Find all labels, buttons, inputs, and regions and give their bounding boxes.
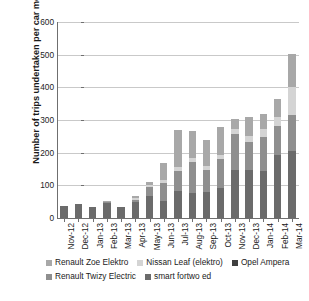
legend-label: Opel Ampera	[241, 258, 289, 267]
bar-segment	[132, 202, 139, 218]
bar-stack[interactable]	[231, 119, 238, 218]
bar-segment	[160, 183, 167, 201]
bar-slot	[142, 22, 156, 218]
bar-segment	[146, 187, 153, 196]
y-axis-ticks: 0100200300400500600	[26, 22, 54, 218]
legend-swatch-icon	[137, 260, 143, 266]
bar-segment	[288, 87, 295, 115]
x-label-slot: Feb-14	[271, 223, 285, 255]
bar-slot	[185, 22, 199, 218]
legend: Renault Zoe ElektroNissan Leaf (elektro)…	[46, 256, 301, 283]
x-tick-mark	[235, 219, 236, 222]
bar-stack[interactable]	[160, 163, 167, 218]
x-tick-mark	[221, 219, 222, 222]
bar-segment	[231, 134, 238, 170]
bar-segment	[203, 170, 210, 192]
x-label-slot: Dec-12	[71, 223, 85, 255]
bar-stack[interactable]	[146, 182, 153, 218]
bar-segment	[274, 126, 281, 155]
bar-segment	[260, 137, 267, 172]
bar-segment	[288, 151, 295, 218]
bar-segment	[274, 99, 281, 117]
legend-item[interactable]: Renault Twizy Electric	[46, 272, 136, 281]
bar-segment	[189, 162, 196, 193]
y-tick-label: 100	[30, 181, 54, 189]
x-label-slot: Jun-13	[157, 223, 171, 255]
bar-chart: Number of trips undertaken per car model…	[0, 0, 309, 301]
bar-stack[interactable]	[217, 127, 224, 218]
legend-row-2: Renault Twizy Electricsmart fortwo ed	[46, 270, 301, 283]
x-tick-mark	[135, 219, 136, 222]
x-label-slot: Mar-14	[285, 223, 299, 255]
bar-segment	[174, 130, 181, 167]
bar-segment	[160, 201, 167, 218]
legend-item[interactable]: Opel Ampera	[232, 258, 289, 267]
bar-stack[interactable]	[274, 99, 281, 218]
x-tick-mark	[178, 219, 179, 222]
x-tick-mark	[278, 219, 279, 222]
bar-stack[interactable]	[103, 201, 110, 218]
bar-segment	[245, 117, 252, 136]
bar-segment	[231, 119, 238, 129]
bar-segment	[274, 117, 281, 125]
bar-segment	[260, 129, 267, 137]
bar-segment	[288, 54, 295, 87]
bar-segment	[260, 114, 267, 129]
bar-stack[interactable]	[260, 114, 267, 218]
legend-row-1: Renault Zoe ElektroNissan Leaf (elektro)…	[46, 256, 301, 269]
bar-slot	[199, 22, 213, 218]
bar-slot	[256, 22, 270, 218]
bar-stack[interactable]	[189, 131, 196, 218]
legend-item[interactable]: smart fortwo ed	[145, 272, 211, 281]
bar-stack[interactable]	[132, 196, 139, 218]
bar-segment	[89, 207, 96, 218]
y-tick-label: 500	[30, 51, 54, 59]
bar-stack[interactable]	[75, 204, 82, 218]
legend-item[interactable]: Nissan Leaf (elektro)	[137, 258, 223, 267]
bar-slot	[285, 22, 299, 218]
x-axis-labels: Nov-12Dec-12Jan-13Feb-13Mar-13Apr-13May-…	[57, 223, 299, 255]
bar-slot	[57, 22, 71, 218]
x-label-slot: Jan-13	[85, 223, 99, 255]
x-tick-mark	[164, 219, 165, 222]
bar-segment	[245, 170, 252, 218]
x-tick-mark	[64, 219, 65, 222]
x-label-slot: Jul-13	[171, 223, 185, 255]
bar-segment	[160, 163, 167, 180]
bar-stack[interactable]	[203, 140, 210, 218]
x-label-slot: Feb-13	[100, 223, 114, 255]
y-tick-label: 0	[30, 214, 54, 222]
bar-stack[interactable]	[288, 54, 295, 218]
bar-slot	[242, 22, 256, 218]
bar-slot	[85, 22, 99, 218]
bar-stack[interactable]	[89, 207, 96, 218]
legend-swatch-icon	[232, 260, 238, 266]
bar-segment	[174, 171, 181, 192]
bar-stack[interactable]	[174, 130, 181, 218]
bar-stack[interactable]	[60, 206, 67, 218]
bar-stack[interactable]	[117, 207, 124, 218]
bar-stack[interactable]	[245, 117, 252, 218]
bar-segment	[117, 207, 124, 218]
x-label-slot: Oct-13	[214, 223, 228, 255]
bar-segment	[189, 193, 196, 218]
x-tick-mark	[249, 219, 250, 222]
x-tick-mark	[192, 219, 193, 222]
legend-label: smart fortwo ed	[154, 272, 211, 281]
bar-segment	[260, 171, 267, 218]
bar-series-container	[57, 22, 299, 218]
y-tick-label: 400	[30, 83, 54, 91]
legend-item[interactable]: Renault Zoe Elektro	[46, 258, 128, 267]
bar-segment	[217, 159, 224, 187]
x-label-slot: Mar-13	[114, 223, 128, 255]
bar-segment	[203, 140, 210, 166]
bar-segment	[146, 196, 153, 218]
x-tick-mark	[121, 219, 122, 222]
x-label-slot: Sep-13	[199, 223, 213, 255]
bar-slot	[214, 22, 228, 218]
bar-segment	[60, 206, 67, 218]
x-label-slot: Nov-13	[228, 223, 242, 255]
bar-segment	[174, 191, 181, 218]
bar-slot	[114, 22, 128, 218]
x-tick-mark	[78, 219, 79, 222]
